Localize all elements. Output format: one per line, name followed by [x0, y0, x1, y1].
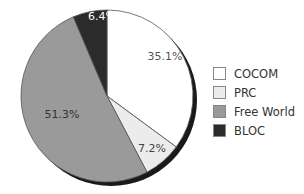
pie-label-free-world: 51.3%: [45, 108, 80, 121]
legend-item-prc: PRC: [213, 83, 295, 102]
pie-label-prc: 7.2%: [138, 142, 166, 155]
pie-label-bloc: 6.4%: [88, 10, 116, 23]
legend-swatch-prc: [213, 86, 226, 99]
legend-label: Free World: [234, 105, 295, 119]
legend-swatch-free-world: [213, 105, 226, 118]
legend-label: COCOM: [234, 67, 278, 81]
legend-item-bloc: BLOC: [213, 121, 295, 140]
legend: COCOM PRC Free World BLOC: [213, 64, 295, 140]
legend-item-cocom: COCOM: [213, 64, 295, 83]
legend-label: BLOC: [234, 124, 265, 138]
legend-label: PRC: [234, 86, 256, 100]
pie-chart: 35.1%7.2%51.3%6.4%: [0, 0, 210, 194]
legend-swatch-cocom: [213, 67, 226, 80]
legend-swatch-bloc: [213, 124, 226, 137]
pie-label-cocom: 35.1%: [148, 50, 183, 63]
legend-item-free-world: Free World: [213, 102, 295, 121]
